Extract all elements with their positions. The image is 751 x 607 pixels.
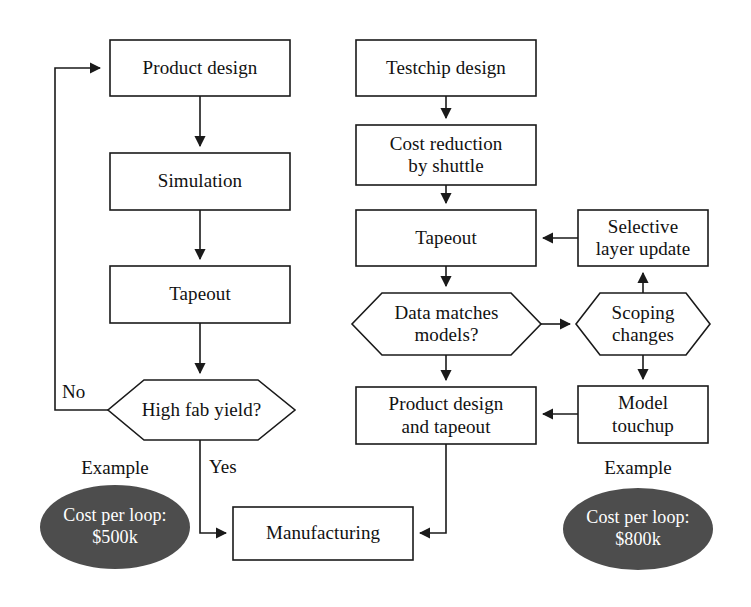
- example-ellipse-right: [563, 488, 713, 570]
- flowchart-diagram: Product design Simulation Tapeout High f…: [0, 0, 751, 607]
- edge-label-no: No: [62, 381, 85, 403]
- node-model-touchup-shape: [578, 386, 708, 443]
- edge-label-yes-text: Yes: [209, 456, 237, 477]
- node-product-design-shape: [110, 40, 290, 96]
- node-simulation-shape: [110, 153, 290, 210]
- example-caption-right: Example: [563, 457, 713, 479]
- example-caption-left: Example: [40, 457, 190, 479]
- edge-yes-to-manufacturing: [200, 440, 226, 533]
- example-ellipse-left: [40, 485, 190, 569]
- edge-no-feedback-to-product-design: [55, 68, 108, 410]
- node-selective-layer-update-shape: [578, 210, 708, 266]
- edge-product-design-and-tapeout-to-manufacturing: [420, 444, 446, 533]
- node-cost-reduction-shape: [356, 125, 536, 185]
- node-tapeout-2-shape: [356, 210, 536, 266]
- edge-label-yes: Yes: [209, 456, 237, 478]
- node-product-design-and-tapeout-shape: [356, 387, 536, 444]
- node-testchip-design-shape: [356, 40, 536, 96]
- node-data-matches-models-shape: [352, 293, 541, 355]
- node-manufacturing-shape: [233, 507, 413, 560]
- node-high-fab-yield-shape: [108, 380, 295, 440]
- example-caption-left-text: Example: [81, 457, 149, 478]
- diagram-vector-layer: [0, 0, 751, 607]
- edge-label-no-text: No: [62, 381, 85, 402]
- example-caption-right-text: Example: [604, 457, 672, 478]
- node-scoping-changes-shape: [576, 293, 710, 355]
- node-tapeout-shape: [110, 266, 290, 323]
